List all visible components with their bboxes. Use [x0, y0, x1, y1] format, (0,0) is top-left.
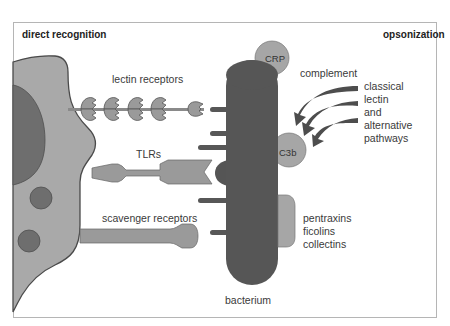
tlrs-label: TLRs — [136, 148, 161, 160]
pathway-lectin: lectin — [364, 93, 389, 105]
pathway-alternative: alternative — [364, 119, 413, 131]
collectins-label: collectins — [303, 238, 346, 250]
pathway-pathways: pathways — [364, 132, 408, 144]
soluble-prr — [278, 195, 295, 247]
granule — [18, 230, 40, 252]
ficolins-label: ficolins — [303, 225, 335, 237]
lectin-receptors-label: lectin receptors — [112, 73, 183, 85]
pathway-classical: classical — [364, 80, 404, 92]
granule — [30, 187, 52, 209]
c3b-label: C3b — [279, 147, 296, 158]
pathway-and: and — [364, 106, 382, 118]
scavenger-receptors-label: scavenger receptors — [102, 212, 197, 224]
pentraxins-label: pentraxins — [303, 212, 351, 224]
direct-recognition-title: direct recognition — [22, 29, 106, 40]
crp-label: CRP — [265, 53, 285, 64]
opsonization-title: opsonization — [383, 29, 445, 40]
complement-label: complement — [300, 67, 357, 79]
innate-recognition-diagram: CRP C3b direct recognition opsonization … — [0, 0, 450, 326]
bacterium-label: bacterium — [225, 294, 271, 306]
